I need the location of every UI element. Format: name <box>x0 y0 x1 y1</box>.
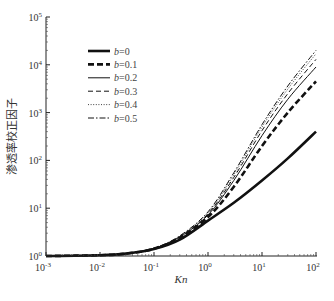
x-tick-label: 10-1 <box>143 261 159 273</box>
series-line-b-0-3 <box>46 59 316 256</box>
permeability-correction-chart: 100101102103104105 10-310-210-1100101102… <box>0 0 334 301</box>
y-tick-label: 103 <box>29 107 43 119</box>
legend-label: b=0.1 <box>114 59 137 70</box>
legend-label: b=0.4 <box>114 99 137 110</box>
x-tick-label: 102 <box>306 261 320 273</box>
legend-label: b=0 <box>114 46 130 57</box>
y-tick-label: 104 <box>29 59 43 71</box>
x-axis-title: Kn <box>174 273 188 285</box>
plot-curves <box>46 50 316 256</box>
legend: b=0b=0.1b=0.2b=0.3b=0.4b=0.5 <box>88 46 137 124</box>
x-tick-label: 101 <box>252 261 266 273</box>
y-tick-label: 100 <box>29 250 43 262</box>
legend-label: b=0.5 <box>114 113 137 124</box>
y-ticks: 100101102103104105 <box>29 11 51 262</box>
y-tick-label: 102 <box>29 154 43 166</box>
x-tick-label: 100 <box>198 261 212 273</box>
y-axis-title: 渗透率校正因子 <box>5 98 19 175</box>
series-line-b-0-5 <box>46 50 316 256</box>
legend-label: b=0.3 <box>114 86 137 97</box>
axes: 100101102103104105 10-310-210-1100101102 <box>29 11 321 273</box>
y-tick-label: 105 <box>29 11 43 23</box>
x-tick-label: 10-3 <box>35 261 51 273</box>
series-line-b-0-2 <box>46 67 316 256</box>
series-line-b-0-4 <box>46 54 316 256</box>
legend-label: b=0.2 <box>114 72 137 83</box>
x-tick-label: 10-2 <box>89 261 105 273</box>
y-tick-label: 101 <box>29 202 43 214</box>
